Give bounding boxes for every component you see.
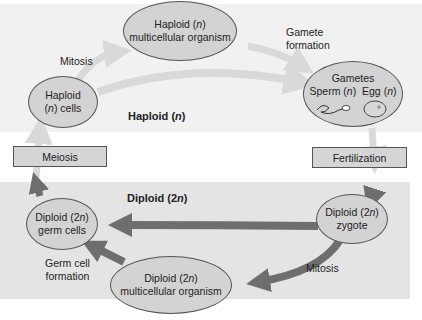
label-mitosis-top: Mitosis	[60, 55, 93, 68]
arrow-haploid-cells-to-gametes	[98, 73, 300, 92]
sperm-icon	[317, 105, 343, 113]
node-gametes: Gametes Sperm (n) Egg (n)	[303, 61, 403, 127]
meiosis-box: Meiosis	[13, 146, 107, 167]
sperm-label: Sperm (n)	[310, 85, 357, 97]
diploid-region-label: Diploid (2n)	[127, 192, 188, 205]
arrow-zygote-to-germ-cells	[120, 225, 318, 226]
label-mitosis-bottom: Mitosis	[306, 262, 339, 275]
label-germ-cell-formation: Germ cell formation	[45, 257, 90, 283]
arrow-germ-cells-to-meiosis	[36, 182, 40, 196]
arrow-zygote-to-diploid-organism	[258, 240, 340, 282]
label-gamete-formation: Gamete formation	[286, 26, 330, 52]
node-haploid-cells: Haploid (n) cells	[28, 76, 98, 128]
node-diploid-multicellular-organism: Diploid (2n) multicellular organism	[110, 256, 232, 314]
node-diploid-germ-cells: Diploid (2n) germ cells	[26, 198, 98, 250]
egg-label: Egg (n)	[362, 85, 396, 97]
haploid-region-label: Haploid (n)	[128, 110, 185, 123]
node-haploid-multicellular-organism: Haploid (n) multicellular organism	[123, 1, 237, 61]
node-diploid-zygote: Diploid (2n) zygote	[316, 194, 388, 244]
arrow-germ-cell-formation	[92, 246, 124, 262]
sperm-egg-illustration	[313, 98, 393, 118]
egg-icon	[364, 101, 386, 117]
fertilization-box: Fertilization	[312, 147, 407, 168]
